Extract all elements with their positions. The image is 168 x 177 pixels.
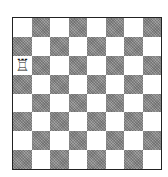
square-a1[interactable] — [13, 150, 32, 169]
square-e7[interactable] — [87, 37, 106, 56]
square-d3[interactable] — [69, 112, 88, 131]
square-f5[interactable] — [106, 75, 125, 94]
square-f2[interactable] — [106, 131, 125, 150]
square-f8[interactable] — [106, 18, 125, 37]
square-c4[interactable] — [50, 94, 69, 113]
square-f3[interactable] — [106, 112, 125, 131]
square-f7[interactable] — [106, 37, 125, 56]
square-h4[interactable] — [143, 94, 162, 113]
square-e5[interactable] — [87, 75, 106, 94]
square-b5[interactable] — [32, 75, 51, 94]
square-d8[interactable] — [69, 18, 88, 37]
square-g3[interactable] — [124, 112, 143, 131]
square-f1[interactable] — [106, 150, 125, 169]
square-d6[interactable] — [69, 56, 88, 75]
square-f4[interactable] — [106, 94, 125, 113]
square-c1[interactable] — [50, 150, 69, 169]
square-a5[interactable] — [13, 75, 32, 94]
square-h7[interactable] — [143, 37, 162, 56]
square-h1[interactable] — [143, 150, 162, 169]
square-f6[interactable] — [106, 56, 125, 75]
square-d4[interactable] — [69, 94, 88, 113]
square-g7[interactable] — [124, 37, 143, 56]
square-b4[interactable] — [32, 94, 51, 113]
square-c6[interactable] — [50, 56, 69, 75]
square-a3[interactable] — [13, 112, 32, 131]
square-h5[interactable] — [143, 75, 162, 94]
square-g1[interactable] — [124, 150, 143, 169]
square-a6[interactable]: ♖ — [13, 56, 32, 75]
square-b2[interactable] — [32, 131, 51, 150]
square-a4[interactable] — [13, 94, 32, 113]
square-h6[interactable] — [143, 56, 162, 75]
square-e8[interactable] — [87, 18, 106, 37]
white-rook-icon[interactable]: ♖ — [15, 57, 30, 74]
square-g2[interactable] — [124, 131, 143, 150]
square-a2[interactable] — [13, 131, 32, 150]
square-h8[interactable] — [143, 18, 162, 37]
square-g4[interactable] — [124, 94, 143, 113]
square-e2[interactable] — [87, 131, 106, 150]
square-e3[interactable] — [87, 112, 106, 131]
square-a8[interactable] — [13, 18, 32, 37]
square-a7[interactable] — [13, 37, 32, 56]
square-e1[interactable] — [87, 150, 106, 169]
square-b8[interactable] — [32, 18, 51, 37]
square-e6[interactable] — [87, 56, 106, 75]
square-g6[interactable] — [124, 56, 143, 75]
square-b1[interactable] — [32, 150, 51, 169]
square-d1[interactable] — [69, 150, 88, 169]
square-h3[interactable] — [143, 112, 162, 131]
square-g5[interactable] — [124, 75, 143, 94]
square-d2[interactable] — [69, 131, 88, 150]
square-c8[interactable] — [50, 18, 69, 37]
square-b7[interactable] — [32, 37, 51, 56]
chess-board: ♖ — [12, 17, 162, 170]
square-d7[interactable] — [69, 37, 88, 56]
square-c3[interactable] — [50, 112, 69, 131]
square-c5[interactable] — [50, 75, 69, 94]
square-b3[interactable] — [32, 112, 51, 131]
square-e4[interactable] — [87, 94, 106, 113]
square-c7[interactable] — [50, 37, 69, 56]
square-b6[interactable] — [32, 56, 51, 75]
square-d5[interactable] — [69, 75, 88, 94]
square-c2[interactable] — [50, 131, 69, 150]
square-g8[interactable] — [124, 18, 143, 37]
square-h2[interactable] — [143, 131, 162, 150]
